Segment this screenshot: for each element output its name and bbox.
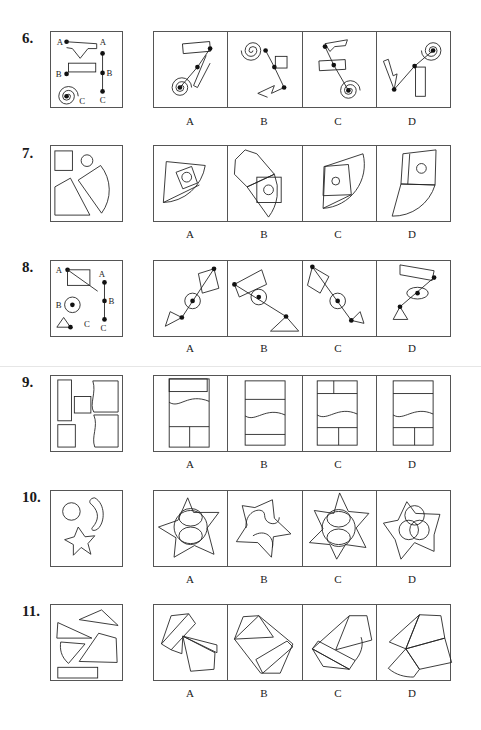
- option-label: D: [375, 342, 449, 354]
- option-label: D: [375, 228, 449, 240]
- option-label: D: [375, 687, 449, 699]
- options-row: [153, 490, 451, 567]
- option-a[interactable]: [154, 605, 228, 680]
- option-b[interactable]: [228, 146, 302, 221]
- options-row: [153, 145, 451, 222]
- option-a[interactable]: [154, 261, 228, 336]
- reference-figure: [50, 490, 123, 567]
- option-label: C: [301, 228, 375, 240]
- option-label: B: [227, 573, 301, 585]
- svg-text:C: C: [100, 95, 106, 105]
- option-b[interactable]: [228, 32, 302, 107]
- option-label: C: [301, 687, 375, 699]
- option-label: A: [153, 228, 227, 240]
- reference-figure: [50, 604, 123, 681]
- option-a[interactable]: [154, 32, 228, 107]
- option-a[interactable]: [154, 376, 228, 451]
- question-number: 7.: [22, 145, 33, 162]
- option-label: B: [227, 342, 301, 354]
- option-d[interactable]: [377, 491, 450, 566]
- option-c[interactable]: [303, 32, 377, 107]
- reference-figure: A B C A B C: [50, 31, 123, 108]
- question-number: 9.: [22, 374, 33, 391]
- svg-text:C: C: [101, 323, 107, 333]
- option-d[interactable]: [377, 146, 450, 221]
- option-label: A: [153, 342, 227, 354]
- question-number: 8.: [22, 259, 33, 276]
- svg-text:A: A: [56, 265, 63, 275]
- option-label: B: [227, 115, 301, 127]
- option-d[interactable]: [377, 261, 450, 336]
- option-b[interactable]: [228, 376, 302, 451]
- option-label: C: [301, 573, 375, 585]
- option-label: D: [375, 573, 449, 585]
- option-d[interactable]: [377, 605, 450, 680]
- svg-text:B: B: [106, 68, 112, 78]
- option-c[interactable]: [303, 146, 377, 221]
- option-b[interactable]: [228, 261, 302, 336]
- svg-text:B: B: [56, 300, 62, 310]
- options-row: [153, 375, 451, 452]
- svg-text:B: B: [108, 296, 114, 306]
- option-label: C: [301, 115, 375, 127]
- option-c[interactable]: [303, 261, 377, 336]
- options-row: [153, 604, 451, 681]
- options-row: [153, 260, 451, 337]
- option-b[interactable]: [228, 605, 302, 680]
- svg-text:C: C: [84, 319, 90, 329]
- question-number: 11.: [22, 603, 40, 620]
- svg-text:C: C: [79, 96, 85, 106]
- reference-figure: A B C A B C: [50, 260, 123, 337]
- option-label: A: [153, 573, 227, 585]
- divider: [0, 366, 481, 367]
- option-label: C: [301, 458, 375, 470]
- options-row: [153, 31, 451, 108]
- option-b[interactable]: [228, 491, 302, 566]
- option-a[interactable]: [154, 491, 228, 566]
- question-number: 6.: [22, 30, 33, 47]
- reference-figure: [50, 145, 123, 222]
- option-label: A: [153, 115, 227, 127]
- option-label: D: [375, 458, 449, 470]
- option-label: B: [227, 687, 301, 699]
- option-a[interactable]: [154, 146, 228, 221]
- option-label: D: [375, 115, 449, 127]
- reference-shapes: A B C A B C: [51, 32, 122, 107]
- option-label: B: [227, 228, 301, 240]
- option-c[interactable]: [303, 376, 377, 451]
- option-c[interactable]: [303, 605, 377, 680]
- option-label: C: [301, 342, 375, 354]
- option-label: B: [227, 458, 301, 470]
- option-label: A: [153, 458, 227, 470]
- svg-text:B: B: [56, 69, 62, 79]
- svg-text:A: A: [99, 269, 106, 279]
- svg-text:A: A: [57, 37, 64, 47]
- option-label: A: [153, 687, 227, 699]
- option-d[interactable]: [377, 376, 450, 451]
- reference-figure: [50, 375, 123, 452]
- question-number: 10.: [22, 489, 41, 506]
- option-c[interactable]: [303, 491, 377, 566]
- option-d[interactable]: [377, 32, 450, 107]
- svg-text:A: A: [100, 37, 107, 47]
